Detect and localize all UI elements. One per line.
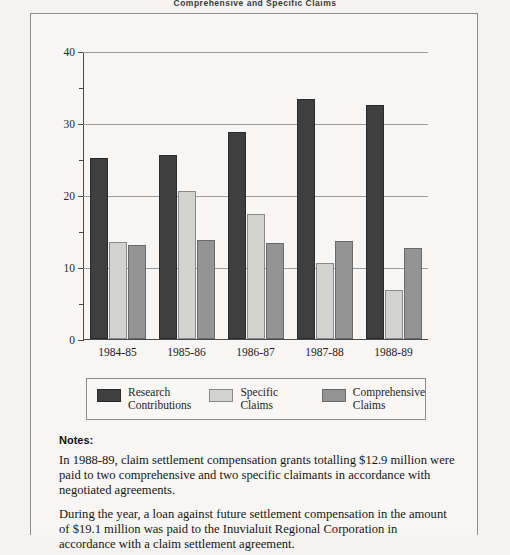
y-axis-tick (78, 268, 83, 269)
x-axis-label: 1988-89 (374, 346, 412, 358)
notes-heading: Notes: (59, 434, 455, 446)
x-axis-line (83, 339, 428, 340)
y-axis-label: 40 (64, 46, 76, 58)
figure-panel: 0102030401984-851985-861986-871987-88198… (30, 13, 478, 535)
bar (109, 242, 127, 339)
legend-swatch (209, 389, 233, 402)
y-axis-label: 30 (64, 118, 76, 130)
legend-label: Comprehensive Claims (353, 386, 425, 412)
bar (228, 132, 246, 339)
bar (366, 105, 384, 339)
y-axis-tick (78, 52, 83, 53)
bar-group (366, 51, 422, 339)
bar-group (297, 51, 353, 339)
y-axis-tick (78, 340, 83, 341)
x-axis-label: 1985-86 (167, 346, 205, 358)
y-axis-minor-tick (79, 232, 83, 233)
bar (335, 241, 353, 339)
y-axis-tick (78, 196, 83, 197)
note-paragraph-1: In 1988-89, claim settlement compensatio… (59, 453, 455, 499)
bar (159, 155, 177, 339)
bar (385, 290, 403, 339)
y-axis-minor-tick (79, 304, 83, 305)
legend-label: Research Contributions (128, 386, 191, 412)
x-axis-label: 1986-87 (236, 346, 274, 358)
y-axis-label: 0 (69, 334, 75, 346)
notes-section: Notes: In 1988-89, claim settlement comp… (59, 434, 455, 555)
bar (316, 263, 334, 339)
bar-group (159, 51, 215, 339)
bar (178, 191, 196, 339)
bar (404, 248, 422, 339)
bar (247, 214, 265, 339)
bar (297, 99, 315, 339)
chart-legend: Research ContributionsSpecific ClaimsCom… (86, 378, 426, 420)
bar-group (90, 51, 146, 339)
bar (197, 240, 215, 339)
x-axis-label: 1987-88 (305, 346, 343, 358)
legend-swatch (97, 389, 121, 402)
bar (266, 243, 284, 339)
bar (90, 158, 108, 339)
y-axis-label: 20 (64, 190, 76, 202)
legend-item: Specific Claims (199, 386, 311, 412)
y-axis-label: 10 (64, 262, 76, 274)
note-paragraph-2: During the year, a loan against future s… (59, 507, 455, 553)
y-axis-tick (78, 124, 83, 125)
running-head: Comprehensive and Specific Claims (0, 0, 510, 9)
bar-chart: 0102030401984-851985-861986-871987-88198… (31, 14, 479, 374)
legend-item: Research Contributions (87, 386, 199, 412)
legend-swatch (322, 389, 346, 402)
legend-item: Comprehensive Claims (312, 386, 425, 412)
legend-label: Specific Claims (240, 386, 278, 412)
y-axis-minor-tick (79, 160, 83, 161)
x-axis-label: 1984-85 (98, 346, 136, 358)
bar (128, 245, 146, 339)
y-axis-minor-tick (79, 88, 83, 89)
bar-group (228, 51, 284, 339)
plot-area: 0102030401984-851985-861986-871987-88198… (83, 52, 428, 340)
